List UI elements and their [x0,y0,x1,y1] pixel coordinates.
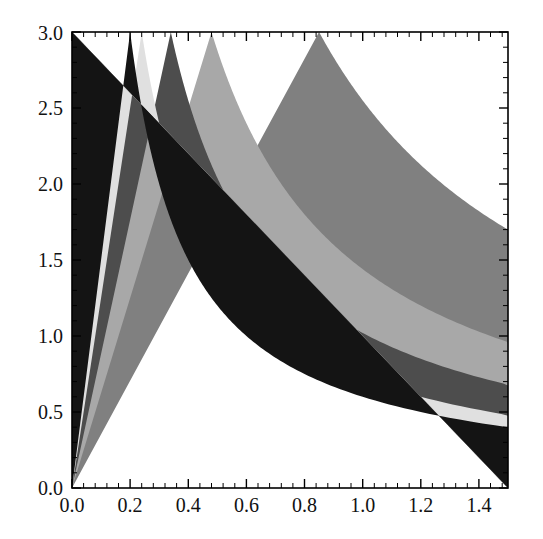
x-tick-label: 1.4 [466,494,491,516]
x-tick-label: 1.2 [408,494,433,516]
x-tick-label: 0.2 [118,494,143,516]
x-tick-label: 0.4 [176,494,201,516]
y-tick-label: 0.5 [38,401,63,423]
contour-plot-figure: 0.0 0.2 0.4 0.6 0.8 1.0 1.2 1.4 0.0 0.5 … [0,0,543,539]
y-tick-label: 2.0 [38,173,63,195]
y-tick-label: 3.0 [38,22,63,44]
x-tick-label: 1.0 [350,494,375,516]
x-tick-label: 0.8 [292,494,317,516]
y-tick-label: 0.0 [38,477,63,499]
y-tick-label: 1.0 [38,325,63,347]
x-tick-label: 0.0 [60,494,85,516]
y-tick-label: 2.5 [38,97,63,119]
contour-bands [72,32,508,488]
plot-canvas: 0.0 0.2 0.4 0.6 0.8 1.0 1.2 1.4 0.0 0.5 … [0,0,543,539]
x-tick-label: 0.6 [234,494,259,516]
y-tick-label: 1.5 [38,249,63,271]
